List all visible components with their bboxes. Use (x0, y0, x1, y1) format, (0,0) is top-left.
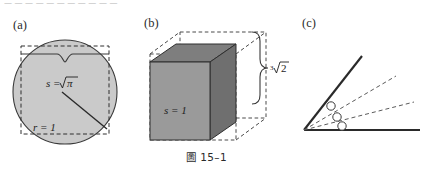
side-label: s = (46, 77, 60, 89)
root-radicand: 2 (281, 62, 287, 74)
figure-scan: — — — — — — — — — — — s = π r = 1 (a) (0, 0, 428, 174)
cube-edge-label: s = 1 (164, 104, 187, 116)
radius-label: r = 1 (33, 121, 56, 133)
angle-marker-1 (327, 102, 335, 110)
pi-symbol: π (67, 77, 73, 89)
angle-marker-3 (338, 122, 346, 130)
panel-squaring-the-circle: s = π r = 1 (a) (0, 14, 140, 166)
root-index: 3 (270, 64, 274, 72)
panel-label-a: (a) (13, 18, 27, 33)
solid-unit-cube (150, 44, 236, 140)
clipped-header-text: — — — — — — — — — — — (4, 0, 140, 7)
angle-marker-2 (333, 113, 341, 121)
figure-caption: 圖 15–1 (186, 149, 227, 164)
panel-label-b: (b) (144, 16, 159, 31)
circle-shape (13, 40, 117, 144)
ray-trisector-upper-dashed (304, 76, 396, 130)
panel-trisecting-the-angle: (c) (292, 14, 428, 166)
height-brace (252, 32, 268, 104)
ray-trisector-lower-dashed (304, 102, 414, 130)
panel-label-c: (c) (302, 16, 316, 31)
cube-root-two-glyph: 3 2 (270, 62, 289, 74)
